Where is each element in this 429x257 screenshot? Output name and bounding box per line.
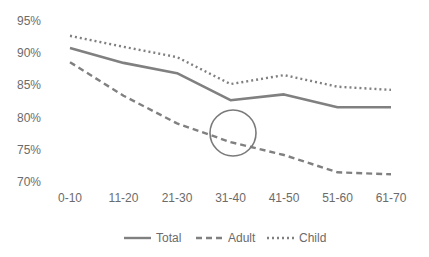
- y-tick-label: 70%: [17, 175, 41, 189]
- x-tick-label: 51-60: [322, 191, 353, 205]
- y-tick-label: 90%: [17, 46, 41, 60]
- legend: TotalAdultChild: [124, 231, 326, 245]
- y-tick-label: 95%: [17, 14, 41, 28]
- legend-item-child: Child: [267, 231, 326, 245]
- highlight-circle: [210, 110, 256, 156]
- legend-label: Child: [299, 231, 326, 245]
- x-tick-label: 11-20: [109, 191, 139, 205]
- legend-label: Adult: [228, 231, 256, 245]
- series-line-total: [70, 48, 391, 107]
- y-tick-label: 80%: [17, 111, 41, 125]
- x-tick-label: 21-30: [162, 191, 193, 205]
- annotation: [210, 110, 256, 156]
- y-tick-label: 85%: [17, 78, 41, 92]
- x-tick-label: 41-50: [269, 191, 300, 205]
- x-tick-label: 31-40: [215, 191, 246, 205]
- x-tick-label: 0-10: [58, 191, 82, 205]
- y-axis: 95%90%85%80%75%70%: [17, 14, 41, 189]
- x-tick-label: 61-70: [376, 191, 407, 205]
- series-line-adult: [70, 62, 391, 174]
- series-line-child: [70, 36, 391, 90]
- legend-label: Total: [156, 231, 181, 245]
- legend-item-total: Total: [124, 231, 181, 245]
- x-axis: 0-1011-2021-3031-4041-5051-6061-70: [58, 191, 407, 205]
- series-lines: [70, 36, 391, 175]
- line-chart: 95%90%85%80%75%70% 0-1011-2021-3031-4041…: [0, 0, 429, 257]
- legend-item-adult: Adult: [196, 231, 256, 245]
- y-tick-label: 75%: [17, 143, 41, 157]
